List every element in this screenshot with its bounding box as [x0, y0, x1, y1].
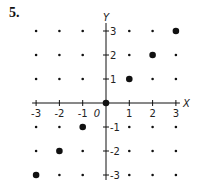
highlighted-point: [103, 100, 110, 107]
lattice-dot: [81, 78, 84, 81]
lattice-dot: [35, 78, 38, 81]
x-tick-label: -1: [78, 108, 88, 119]
lattice-dot: [175, 78, 178, 81]
lattice-dot: [81, 54, 84, 57]
highlighted-point: [173, 28, 180, 35]
y-tick-label: 3: [110, 26, 116, 37]
lattice-dot: [175, 54, 178, 57]
x-tick-label: 1: [126, 108, 132, 119]
lattice-dot: [58, 54, 61, 57]
tick-labels: -3-2-1123-3-2-11230XY: [31, 12, 191, 181]
origin-label: 0: [94, 108, 100, 119]
y-axis-label: Y: [103, 12, 110, 23]
lattice-dot: [151, 78, 154, 81]
coordinate-plot: -3-2-1123-3-2-11230XY: [0, 0, 199, 191]
y-tick-label: -3: [110, 170, 120, 181]
lattice-dot: [128, 150, 131, 153]
lattice-dot: [81, 30, 84, 33]
lattice-dot: [35, 126, 38, 129]
lattice-dot: [81, 174, 84, 177]
lattice-dot: [58, 30, 61, 33]
lattice-dot: [35, 30, 38, 33]
highlighted-point: [79, 124, 86, 131]
x-tick-label: 2: [149, 108, 155, 119]
lattice-dot: [151, 126, 154, 129]
highlighted-point: [33, 172, 40, 179]
lattice-dot: [81, 150, 84, 153]
y-tick-label: 1: [110, 74, 116, 85]
y-tick-label: -2: [110, 146, 120, 157]
lattice-dot: [175, 174, 178, 177]
lattice-dot: [175, 150, 178, 153]
lattice-dot: [151, 174, 154, 177]
lattice-dot: [128, 30, 131, 33]
lattice-dot: [35, 54, 38, 57]
highlighted-point: [149, 52, 156, 59]
y-tick-label: -1: [110, 122, 120, 133]
lattice-dot: [151, 150, 154, 153]
highlighted-point: [56, 148, 63, 155]
lattice-dot: [58, 126, 61, 129]
x-tick-label: -3: [31, 108, 41, 119]
x-tick-label: 3: [173, 108, 179, 119]
lattice-dot: [128, 174, 131, 177]
lattice-dot: [175, 126, 178, 129]
lattice-dot: [128, 54, 131, 57]
lattice-dot: [128, 126, 131, 129]
y-tick-label: 2: [110, 50, 116, 61]
lattice-dot: [58, 78, 61, 81]
x-axis-label: X: [182, 98, 191, 109]
highlighted-point: [126, 76, 133, 83]
lattice-dot: [35, 150, 38, 153]
lattice-dot: [151, 30, 154, 33]
x-tick-label: -2: [54, 108, 64, 119]
lattice-dot: [58, 174, 61, 177]
